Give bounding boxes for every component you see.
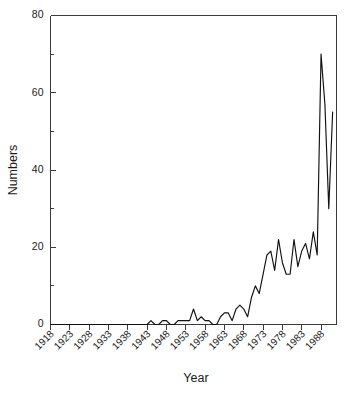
x-tick-label: 1963 [206, 328, 230, 352]
y-tick-label: 0 [38, 317, 44, 329]
x-tick-label: 1953 [168, 328, 192, 352]
axes-frame [51, 16, 337, 325]
x-axis-title: Year [183, 371, 208, 385]
x-tick-label: 1978 [264, 328, 288, 352]
y-axis-ticks [51, 16, 56, 325]
x-tick-label: 1918 [32, 328, 56, 352]
x-tick-label: 1948 [148, 328, 172, 352]
series-line-numbers [51, 54, 333, 324]
x-tick-label: 1973 [245, 328, 269, 352]
y-tick-label: 20 [32, 240, 44, 252]
y-tick-label: 60 [32, 86, 44, 98]
y-tick-label: 40 [32, 163, 44, 175]
x-tick-label: 1928 [71, 328, 95, 352]
x-tick-label: 1958 [187, 328, 211, 352]
y-axis-title: Numbers [6, 145, 20, 196]
x-axis-tick-labels: 1918192319281933193819431948195319581963… [32, 328, 326, 352]
x-tick-label: 1938 [110, 328, 134, 352]
chart-figure: 020406080 191819231928193319381943194819… [0, 0, 360, 393]
data-series-group [51, 54, 333, 324]
x-tick-label: 1943 [129, 328, 153, 352]
y-axis-tick-labels: 020406080 [32, 8, 44, 329]
x-tick-label: 1933 [90, 328, 114, 352]
y-tick-label: 80 [32, 8, 44, 20]
x-tick-label: 1983 [284, 328, 308, 352]
x-tick-label: 1923 [52, 328, 76, 352]
line-chart: 020406080 191819231928193319381943194819… [0, 0, 360, 393]
x-tick-label: 1988 [303, 328, 327, 352]
x-tick-label: 1968 [226, 328, 250, 352]
